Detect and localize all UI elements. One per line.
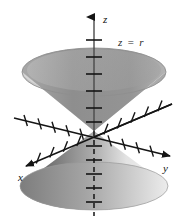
z-axis-label: z <box>102 13 108 25</box>
x-axis-label: x <box>17 171 23 183</box>
cone-figure: z x y z = r <box>0 0 189 219</box>
y-axis-label: y <box>162 162 168 174</box>
cone-diagram-svg: z x y z = r <box>0 0 189 219</box>
equation-label: z = r <box>117 36 144 48</box>
